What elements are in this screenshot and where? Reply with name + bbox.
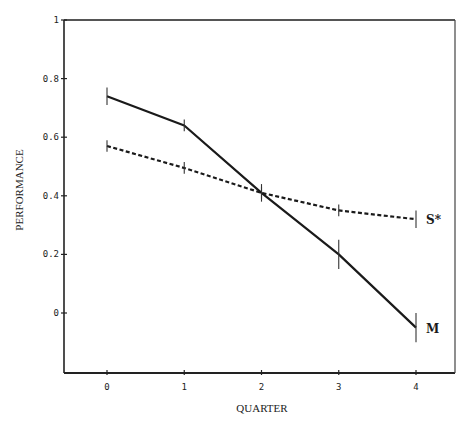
series-s: S* [107,140,442,228]
x-tick-label: 1 [182,382,187,392]
data-series: MS* [107,87,442,342]
y-tick-label: 0.2 [43,249,59,259]
y-tick-label: 0.4 [43,191,59,201]
y-axis-title: PERFORMANCE [13,149,25,231]
x-tick-label: 2 [259,382,264,392]
x-tick-label: 3 [336,382,341,392]
y-tick-label: 0.6 [43,132,59,142]
x-axis-title: QUARTER [236,402,288,414]
series-label: S* [426,213,442,227]
x-tick-label: 4 [413,382,418,392]
line-chart: 00.20.40.60.81 01234 MS* QUARTER PERFORM… [0,0,468,430]
series-label: M [426,322,439,336]
y-tick-label: 1 [54,15,59,25]
plot-frame [64,20,455,373]
series-line [107,96,416,327]
x-tick-label: 0 [104,382,109,392]
y-tick-label: 0 [54,308,59,318]
y-tick-label: 0.8 [43,74,59,84]
series-line [107,146,416,219]
series-m: M [107,87,439,342]
